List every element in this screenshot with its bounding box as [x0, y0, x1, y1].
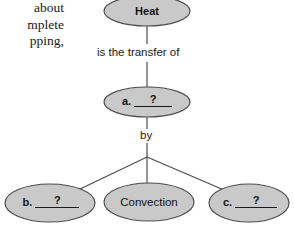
page-root: about mplete pping, Heat a. ? b. ? Conve… [0, 0, 294, 227]
answer-a-slot[interactable]: ? [134, 93, 172, 107]
answer-b-blank[interactable]: b. ? [22, 194, 80, 208]
concept-map-diagram [0, 0, 294, 227]
answer-a-questionmark: ? [134, 93, 172, 106]
edge-label-by: by [140, 129, 152, 141]
answer-a-blank[interactable]: a. ? [121, 93, 173, 107]
answer-a-letter: a. [122, 95, 131, 107]
answer-b-slot[interactable]: ? [35, 194, 79, 208]
convection-node-shape[interactable] [104, 183, 194, 221]
answer-c-blank[interactable]: c. ? [222, 194, 278, 208]
answer-b-letter: b. [23, 196, 33, 208]
edge-label-is-the-transfer-of: is the transfer of [97, 46, 179, 58]
answer-b-questionmark: ? [35, 194, 79, 207]
answer-c-slot[interactable]: ? [235, 194, 277, 208]
answer-c-letter: c. [223, 196, 232, 208]
heat-node-shape[interactable] [104, 0, 190, 26]
answer-c-questionmark: ? [235, 194, 277, 207]
